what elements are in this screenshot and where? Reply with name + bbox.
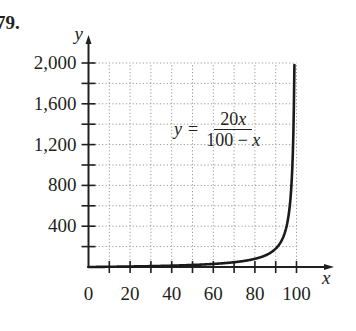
numerator-var: x (238, 109, 246, 129)
function-curve (89, 65, 295, 267)
y-tick-label: 1,200 (34, 134, 77, 155)
equation-lhs: y (174, 119, 182, 140)
x-tick-label: 80 (245, 283, 264, 304)
x-tick-label: 100 (282, 283, 311, 304)
equation-label: y = 20x 100 − x (174, 110, 260, 149)
x-tick-label: 20 (121, 283, 140, 304)
grid-lines (89, 63, 297, 267)
y-tick-label: 1,600 (34, 93, 77, 114)
denominator-const: 100 − (206, 130, 252, 150)
chart-plot-area: 0204060801004008001,2001,6002,000yx (0, 0, 356, 331)
x-axis-label: x (321, 267, 331, 288)
equation-denominator: 100 − x (206, 130, 260, 149)
y-tick-label: 800 (48, 174, 77, 195)
equation-fraction: 20x 100 − x (206, 110, 260, 149)
y-axis-label: y (73, 23, 84, 44)
numerator-coef: 20 (220, 109, 238, 129)
y-tick-label: 2,000 (34, 52, 77, 73)
tick-labels: 0204060801004008001,2001,6002,000yx (34, 23, 331, 304)
y-axis-arrow-icon (86, 35, 92, 44)
x-tick-label: 40 (162, 283, 181, 304)
y-tick-label: 400 (48, 215, 77, 236)
denominator-var: x (252, 130, 260, 150)
x-tick-label: 0 (84, 283, 94, 304)
equation-numerator: 20x (214, 110, 252, 130)
x-tick-label: 60 (204, 283, 223, 304)
axis-ticks (82, 63, 297, 273)
equation-equals: = (188, 119, 198, 140)
axes (86, 35, 335, 270)
